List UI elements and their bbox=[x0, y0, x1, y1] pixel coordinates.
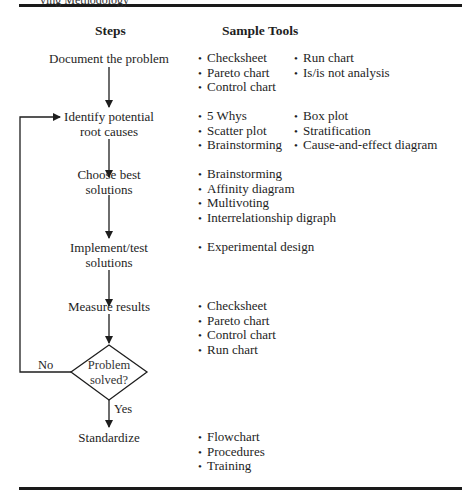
bullet-icon: • bbox=[198, 314, 207, 329]
step-measure-results: Measure results bbox=[29, 299, 189, 314]
tool-item: •Control chart bbox=[198, 80, 276, 95]
tool-label: Stratification bbox=[303, 123, 371, 138]
tool-item: •Multivoting bbox=[198, 196, 336, 211]
step-choose-best-solutions: Choose best solutions bbox=[29, 167, 189, 197]
tool-label: Pareto chart bbox=[207, 313, 269, 328]
bullet-icon: • bbox=[198, 343, 207, 358]
tool-item: •Control chart bbox=[198, 328, 276, 343]
bullet-icon: • bbox=[294, 138, 303, 153]
tool-label: Training bbox=[207, 458, 251, 473]
bullet-icon: • bbox=[198, 299, 207, 314]
bullet-icon: • bbox=[198, 430, 207, 445]
bullet-icon: • bbox=[198, 211, 207, 226]
bullet-icon: • bbox=[198, 196, 207, 211]
tool-label: Checksheet bbox=[207, 298, 267, 313]
bullet-icon: • bbox=[294, 109, 303, 124]
tools-choose-col1: •Brainstorming •Affinity diagram •Multiv… bbox=[198, 167, 336, 225]
tool-label: Run chart bbox=[303, 50, 354, 65]
tools-document-col2: •Run chart •Is/is not analysis bbox=[294, 51, 390, 80]
yes-label: Yes bbox=[114, 402, 132, 417]
tool-label: Control chart bbox=[207, 327, 276, 342]
tools-identify-col1: •5 Whys •Scatter plot •Brainstorming bbox=[198, 109, 282, 153]
tool-item: •Brainstorming bbox=[198, 138, 282, 153]
bullet-icon: • bbox=[294, 51, 303, 66]
tool-label: Multivoting bbox=[207, 195, 269, 210]
tool-label: Is/is not analysis bbox=[303, 65, 390, 80]
bullet-icon: • bbox=[198, 445, 207, 460]
step-label: Document the problem bbox=[29, 51, 189, 66]
bullet-icon: • bbox=[198, 51, 207, 66]
tool-label: Affinity diagram bbox=[207, 181, 295, 196]
tools-measure-col1: •Checksheet •Pareto chart •Control chart… bbox=[198, 299, 276, 357]
tool-label: Brainstorming bbox=[207, 166, 282, 181]
tool-label: Scatter plot bbox=[207, 123, 267, 138]
bullet-icon: • bbox=[198, 124, 207, 139]
bullet-icon: • bbox=[198, 66, 207, 81]
tool-label: Experimental design bbox=[207, 239, 314, 254]
tool-label: Interrelationship digraph bbox=[207, 210, 336, 225]
step-label: solutions bbox=[29, 182, 189, 197]
tool-label: Control chart bbox=[207, 79, 276, 94]
no-label: No bbox=[38, 358, 53, 373]
tool-label: Pareto chart bbox=[207, 65, 269, 80]
tools-implement-col1: •Experimental design bbox=[198, 240, 314, 255]
tool-item: •Interrelationship digraph bbox=[198, 211, 336, 226]
tool-item: •Training bbox=[198, 459, 265, 474]
step-label: Measure results bbox=[29, 299, 189, 314]
tool-item: •Affinity diagram bbox=[198, 182, 336, 197]
tool-item: •Experimental design bbox=[198, 240, 314, 255]
tool-label: Box plot bbox=[303, 108, 348, 123]
tool-item: •Box plot bbox=[294, 109, 437, 124]
tool-label: Flowchart bbox=[207, 429, 260, 444]
step-label: Identify potential bbox=[29, 109, 189, 124]
tool-item: •Cause-and-effect diagram bbox=[294, 138, 437, 153]
step-label: solutions bbox=[29, 255, 189, 270]
decision-line-1: Problem bbox=[76, 358, 142, 373]
tool-label: Cause-and-effect diagram bbox=[303, 137, 437, 152]
bullet-icon: • bbox=[294, 66, 303, 81]
tools-identify-col2: •Box plot •Stratification •Cause-and-eff… bbox=[294, 109, 437, 153]
step-standardize: Standardize bbox=[29, 430, 189, 445]
tool-label: Procedures bbox=[207, 444, 265, 459]
step-document-the-problem: Document the problem bbox=[29, 51, 189, 66]
bullet-icon: • bbox=[198, 109, 207, 124]
step-label: root causes bbox=[29, 124, 189, 139]
decision-line-2: solved? bbox=[76, 373, 142, 388]
step-label: Standardize bbox=[29, 430, 189, 445]
tool-label: Run chart bbox=[207, 342, 258, 357]
step-label: Choose best bbox=[29, 167, 189, 182]
bullet-icon: • bbox=[198, 167, 207, 182]
tool-item: •Checksheet bbox=[198, 299, 276, 314]
bullet-icon: • bbox=[198, 459, 207, 474]
bullet-icon: • bbox=[198, 80, 207, 95]
decision-text: Problem solved? bbox=[76, 358, 142, 388]
tool-item: •Brainstorming bbox=[198, 167, 336, 182]
step-label: Implement/test bbox=[29, 240, 189, 255]
tool-item: •Scatter plot bbox=[198, 124, 282, 139]
bullet-icon: • bbox=[198, 240, 207, 255]
tool-item: •Procedures bbox=[198, 445, 265, 460]
tool-item: •Pareto chart bbox=[198, 66, 276, 81]
step-identify-root-causes: Identify potential root causes bbox=[29, 109, 189, 139]
tools-standardize-col1: •Flowchart •Procedures •Training bbox=[198, 430, 265, 474]
tool-item: •Flowchart bbox=[198, 430, 265, 445]
step-implement-test-solutions: Implement/test solutions bbox=[29, 240, 189, 270]
tool-label: 5 Whys bbox=[207, 108, 247, 123]
tool-label: Checksheet bbox=[207, 50, 267, 65]
tool-item: •Run chart bbox=[294, 51, 390, 66]
tools-document-col1: •Checksheet •Pareto chart •Control chart bbox=[198, 51, 276, 95]
bullet-icon: • bbox=[198, 182, 207, 197]
tool-item: •Run chart bbox=[198, 343, 276, 358]
tool-item: •Stratification bbox=[294, 124, 437, 139]
tool-item: •Checksheet bbox=[198, 51, 276, 66]
bullet-icon: • bbox=[294, 124, 303, 139]
tool-item: •Is/is not analysis bbox=[294, 66, 390, 81]
tool-item: •Pareto chart bbox=[198, 314, 276, 329]
bullet-icon: • bbox=[198, 328, 207, 343]
tool-label: Brainstorming bbox=[207, 137, 282, 152]
bullet-icon: • bbox=[198, 138, 207, 153]
tool-item: •5 Whys bbox=[198, 109, 282, 124]
